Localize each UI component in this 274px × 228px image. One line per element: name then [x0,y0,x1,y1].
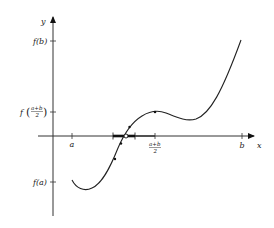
x-tick-label-b: b [240,141,245,150]
y-tick-label-fmid-prefix: f [19,108,25,117]
bisection-bracket [113,133,155,140]
y-tick-fmid: f ( a+b 2 ) [19,105,56,119]
y-tick-fa: f(a) [32,178,56,187]
y-tick-label-fa: f(a) [32,178,47,187]
y-axis-label: y [40,17,46,26]
x-tick-a: a [70,133,75,149]
y-tick-label-fmid-rparen: ) [43,106,47,119]
curve-point-midpoint [154,111,157,114]
bisection-diagram: y x a a+b 2 b f(b) f ( a+b 2 ) f(a) [0,0,274,228]
y-tick-fb: f(b) [32,37,56,46]
x-tick-midpoint-denominator: 2 [153,148,158,154]
curve-point-upper [128,126,130,128]
root-marker [124,134,128,138]
x-tick-midpoint-numerator: a+b [149,141,161,147]
y-tick-label-fb: f(b) [32,37,47,46]
x-axis-label: x [257,141,262,150]
function-curve [72,40,241,190]
y-tick-label-fmid-lparen: ( [26,106,30,119]
curve-point-low [114,158,116,160]
x-tick-label-a: a [70,140,75,149]
y-tick-label-fmid-numerator: a+b [31,105,43,111]
y-tick-label-fmid-denominator: 2 [35,112,40,118]
curve-point-lower [120,142,122,144]
